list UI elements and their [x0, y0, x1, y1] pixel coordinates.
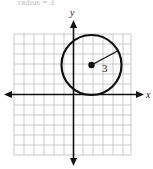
center-point: [88, 62, 94, 68]
caption-partial: radius = 3: [18, 0, 55, 7]
x-axis-label: x: [145, 89, 151, 100]
coordinate-plane: radius = 3 x y: [0, 0, 153, 169]
y-axis-label: y: [69, 7, 75, 18]
radius-label: 3: [102, 62, 108, 74]
